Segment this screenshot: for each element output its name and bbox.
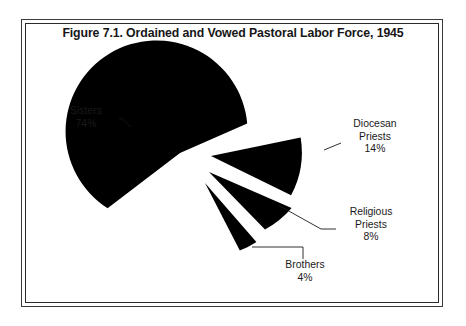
slice-label-sisters: Sisters 74% [57,105,115,130]
figure-container: Figure 7.1. Ordained and Vowed Pastoral … [0,0,466,326]
slice-label-religious-priests: Religious Priests 8% [339,206,403,244]
slice-label-diocesan-priests-value: 14% [344,143,406,156]
leader-line-brothers [252,247,303,259]
pie-chart [25,23,439,303]
slice-label-sisters-value: 74% [57,118,115,131]
slice-label-religious-priests-line2: Priests [339,219,403,232]
slice-label-brothers: Brothers 4% [274,259,336,284]
slice-label-religious-priests-value: 8% [339,231,403,244]
slice-label-religious-priests-line1: Religious [350,206,393,217]
slice-label-brothers-value: 4% [274,272,336,285]
slice-label-diocesan-priests-line1: Diocesan [353,118,396,129]
slice-label-sisters-name: Sisters [70,105,102,116]
slice-label-brothers-name: Brothers [285,259,324,270]
slice-label-diocesan-priests-line2: Priests [344,131,406,144]
leader-line-diocesan-priests [324,143,341,150]
slice-label-diocesan-priests: Diocesan Priests 14% [344,118,406,156]
